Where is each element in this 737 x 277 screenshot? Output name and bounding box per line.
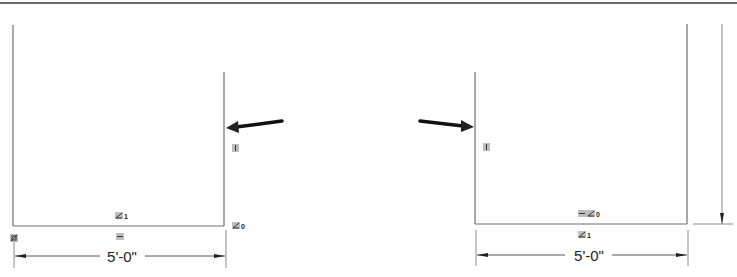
- left-dimension-label[interactable]: 5'-0": [107, 248, 137, 265]
- left-dim-arrowhead-right: [214, 254, 225, 258]
- cad-drawing-canvas[interactable]: 5'-0" 1 0: [0, 0, 737, 277]
- arrow-pointing-right-icon: [420, 120, 474, 132]
- glyph-subscript: 0: [596, 211, 600, 218]
- right-view: 5'-0" 0 1: [420, 24, 733, 266]
- right-dim-arrowhead-left: [477, 253, 488, 257]
- vertical-dim-arrowhead: [720, 213, 724, 224]
- right-dim-arrowhead-right: [676, 253, 687, 257]
- parallel-constraint-icon[interactable]: 0: [232, 222, 245, 230]
- glyph-subscript: 1: [124, 213, 128, 220]
- fix-constraint-icon[interactable]: [10, 234, 18, 242]
- right-dimension-label[interactable]: 5'-0": [574, 247, 604, 264]
- vertical-constraint-icon[interactable]: [483, 143, 490, 151]
- glyph-subscript: 0: [241, 223, 245, 230]
- glyph-subscript: 1: [587, 232, 591, 239]
- horizontal-constraint-icon[interactable]: [116, 233, 124, 240]
- left-view: 5'-0" 1 0: [10, 25, 282, 268]
- parallel-constraint-icon[interactable]: 1: [578, 231, 591, 239]
- horizontal-parallel-constraint-icon[interactable]: 0: [578, 210, 600, 218]
- vertical-constraint-icon[interactable]: [232, 144, 239, 152]
- parallel-constraint-icon[interactable]: 1: [115, 212, 128, 220]
- arrow-pointing-left-icon: [226, 121, 282, 133]
- left-dim-arrowhead-left: [15, 254, 26, 258]
